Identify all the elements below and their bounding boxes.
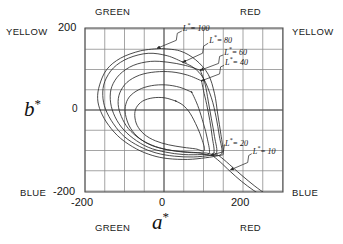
annotation-leader-line xyxy=(230,154,251,170)
series-label: L*= 40 xyxy=(225,56,248,67)
series-label: L*= 10 xyxy=(253,145,276,156)
annotation-leader-line xyxy=(202,65,225,80)
plot-canvas xyxy=(0,0,343,244)
series-label: L*= 100 xyxy=(183,22,210,33)
series-label: L*= 60 xyxy=(224,46,247,57)
series-label: L*= 80 xyxy=(209,34,232,45)
gamut-contour xyxy=(135,97,205,151)
gamut-contour xyxy=(118,72,214,155)
annotation-leader-line xyxy=(157,31,182,48)
cielab-chromaticity-figure: YELLOW GREEN RED YELLOW BLUE GREEN RED B… xyxy=(0,0,343,244)
series-label: L*= 20 xyxy=(225,137,248,148)
